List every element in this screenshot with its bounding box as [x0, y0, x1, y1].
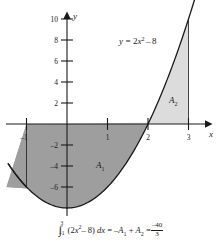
term1-subscript: 1	[124, 231, 127, 237]
y-tick-label-8: 8	[54, 36, 58, 45]
function-label-eq: =	[126, 36, 131, 46]
y-axis-arrowhead	[63, 12, 70, 20]
figure-graph-of-parabola: 10 8 6 4 2 –2 –4 –6 –1 1 2 3 y=2x2–8	[0, 0, 222, 244]
function-label-power: 2	[142, 36, 145, 42]
y-tick-label-neg2: –2	[50, 141, 59, 150]
y-tick-label-neg6: –6	[50, 183, 59, 192]
integral-upper-limit: 3	[59, 221, 65, 227]
result-denominator: 3	[151, 231, 164, 238]
y-tick-label-neg4: –4	[50, 162, 59, 171]
function-label-const: 8	[152, 36, 157, 46]
y-tick-label-6: 6	[54, 57, 58, 66]
x-tick-label-3: 3	[187, 133, 191, 142]
x-axis-label: x	[208, 129, 213, 139]
region-label-a2-subscript: 2	[175, 101, 178, 107]
parabola-plot-svg: 10 8 6 4 2 –2 –4 –6 –1 1 2 3 y=2x2–8	[0, 0, 222, 244]
y-axis-label: y	[72, 11, 77, 21]
figure-caption: ∫3–1(2x2– 8) dx = –A1 + A2 =–403	[0, 222, 222, 239]
shaded-region-a2	[48, 19, 189, 124]
function-label-y: y	[118, 36, 123, 46]
x-tick-label-1: 1	[106, 133, 110, 142]
y-tick-label-4: 4	[54, 78, 58, 87]
function-label-minus: –	[145, 36, 151, 46]
differential-x: x	[101, 225, 105, 235]
integral-lower-limit: –1	[59, 231, 65, 237]
plus-sign: +	[129, 225, 134, 235]
integral-limits: 3–1	[59, 224, 65, 235]
x-axis-arrowhead	[205, 120, 213, 127]
equals-sign-1: =	[107, 225, 112, 235]
y-tick-label-2: 2	[54, 99, 58, 108]
integrand-constant-term: – 8)	[81, 225, 94, 235]
integrand-open: (2	[68, 225, 75, 235]
result-fraction: –403	[151, 222, 164, 238]
x-tick-label-2: 2	[146, 133, 150, 142]
term2-subscript: 2	[141, 231, 144, 237]
region-label-a1-subscript: 1	[102, 166, 105, 172]
function-label: y=2x2–8	[118, 36, 157, 47]
y-tick-label-10: 10	[51, 15, 59, 24]
